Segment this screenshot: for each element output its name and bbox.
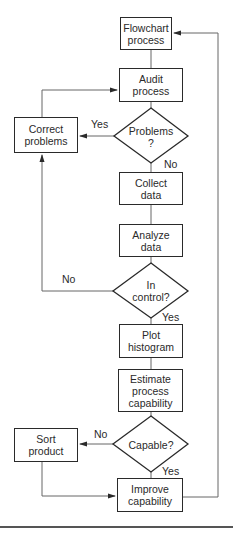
decision-in-control-label: In control? [121, 278, 181, 304]
node-label: data [141, 189, 161, 201]
node-label: product [28, 445, 63, 457]
decision-label: ? [148, 137, 154, 149]
decision-label: In [147, 279, 156, 291]
node-improve-capability: Improve capability [117, 478, 183, 512]
edge-label-capable-yes: Yes [162, 465, 179, 477]
node-flowchart-process: Flowchart process [120, 17, 172, 50]
node-label: Sort [36, 433, 55, 445]
edge-label-in-control-yes: Yes [162, 311, 179, 323]
node-label: Improve [131, 483, 169, 495]
connector-incontrol-no [42, 155, 113, 291]
node-plot-histogram: Plot histogram [119, 324, 183, 358]
node-label: data [141, 241, 161, 253]
node-label: Estimate [130, 373, 171, 385]
connector-improve-flowchart [174, 33, 218, 497]
node-label: histogram [128, 341, 174, 353]
edge-label-in-control-no: No [62, 273, 75, 285]
node-label: Audit [139, 73, 163, 85]
decision-label: Capable? [129, 439, 174, 451]
edge-label-problems-yes: Yes [91, 118, 108, 130]
edge-label-problems-no: No [164, 158, 177, 170]
node-correct-problems: Correct problems [14, 117, 78, 153]
connector-correct-audit [42, 90, 117, 117]
node-label: capability [128, 495, 172, 507]
node-label: Flowchart [123, 22, 169, 34]
node-label: Analyze [132, 229, 169, 241]
node-label: process [132, 385, 169, 397]
node-sort-product: Sort product [14, 428, 78, 462]
node-label: Plot [142, 329, 160, 341]
node-label: process [133, 85, 170, 97]
decision-label: Problems [129, 125, 173, 137]
node-label: Collect [135, 177, 167, 189]
decision-capable-label: Capable? [117, 438, 185, 451]
node-label: problems [24, 135, 67, 147]
decision-problems-label: Problems ? [121, 124, 181, 150]
node-label: Correct [29, 123, 63, 135]
edge-label-capable-no: No [94, 428, 107, 440]
node-label: process [128, 34, 165, 46]
node-audit-process: Audit process [119, 68, 183, 102]
bottom-rule-divider [0, 526, 233, 528]
node-analyze-data: Analyze data [119, 224, 183, 257]
node-label: capability [129, 397, 173, 409]
connector-sort-improve [42, 462, 115, 496]
decision-label: control? [132, 291, 169, 303]
node-collect-data: Collect data [119, 172, 183, 205]
node-estimate-capability: Estimate process capability [118, 369, 183, 412]
